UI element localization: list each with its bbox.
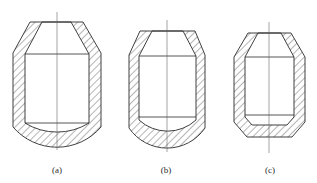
figure-c-label: (c) bbox=[265, 165, 275, 175]
figure-c-hatched-wall bbox=[234, 33, 305, 137]
figure-b-label: (b) bbox=[161, 165, 172, 175]
figure-a: (a) bbox=[13, 12, 101, 175]
vessel-sections-diagram: (a) (b) (c) bbox=[0, 0, 317, 183]
figure-c: (c) bbox=[234, 22, 305, 175]
figure-b: (b) bbox=[129, 20, 205, 175]
diagram-canvas: (a) (b) (c) bbox=[0, 0, 317, 183]
figure-a-label: (a) bbox=[52, 165, 62, 175]
